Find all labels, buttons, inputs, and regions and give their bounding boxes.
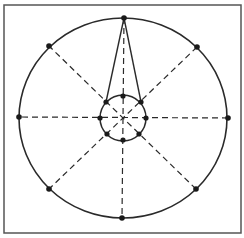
inner-point-inner-bottom <box>120 137 125 142</box>
triangle-right-edge <box>124 18 141 102</box>
outer-point-right <box>225 115 231 121</box>
outer-point-left <box>16 114 22 120</box>
diagram-canvas <box>0 0 244 238</box>
outer-point-bottom <box>119 215 125 221</box>
outer-point-upper-left <box>46 43 52 49</box>
inner-point-inner-lower-left <box>104 131 109 136</box>
circle-diagram <box>0 0 244 238</box>
inner-point-inner-upper-right <box>138 99 143 104</box>
inner-point-inner-upper-left <box>103 99 108 104</box>
outer-point-top <box>121 15 127 21</box>
outer-point-lower-left <box>46 186 52 192</box>
inner-point-inner-left <box>97 115 102 120</box>
triangle-left-edge <box>106 18 124 102</box>
inner-point-inner-top <box>120 93 125 98</box>
outer-point-upper-right <box>194 44 200 50</box>
outer-point-lower-right <box>193 186 199 192</box>
inner-point-inner-right <box>143 115 148 120</box>
inner-point-inner-lower-right <box>136 131 141 136</box>
